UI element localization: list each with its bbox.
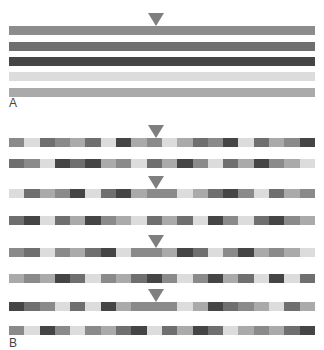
uniform-bar: [9, 88, 315, 97]
color-block: [238, 302, 253, 311]
color-block: [193, 216, 208, 225]
color-block: [193, 274, 208, 283]
color-block: [116, 274, 131, 283]
color-block: [55, 248, 70, 257]
color-block: [238, 159, 253, 168]
color-block: [70, 216, 85, 225]
block-row: [9, 302, 315, 311]
color-block: [300, 302, 315, 311]
block-row: [9, 138, 315, 147]
color-block: [162, 159, 177, 168]
color-block: [116, 216, 131, 225]
color-block: [269, 302, 284, 311]
color-block: [238, 274, 253, 283]
color-block: [24, 326, 39, 335]
color-block: [238, 248, 253, 257]
color-block: [193, 248, 208, 257]
color-block: [85, 248, 100, 257]
color-block: [9, 189, 24, 198]
color-block: [131, 216, 146, 225]
color-block: [131, 248, 146, 257]
color-block: [85, 274, 100, 283]
color-block: [9, 274, 24, 283]
color-block: [147, 326, 162, 335]
color-block: [131, 159, 146, 168]
color-block: [254, 274, 269, 283]
insertion-arrow-icon: [148, 125, 164, 138]
color-block: [147, 138, 162, 147]
color-block: [55, 159, 70, 168]
color-block: [177, 326, 192, 335]
color-block: [238, 189, 253, 198]
color-block: [208, 216, 223, 225]
color-block: [162, 274, 177, 283]
color-block: [40, 326, 55, 335]
color-block: [55, 274, 70, 283]
color-block: [70, 274, 85, 283]
color-block: [269, 189, 284, 198]
color-block: [193, 138, 208, 147]
insertion-arrow-icon: [148, 235, 164, 248]
color-block: [284, 159, 299, 168]
color-block: [162, 189, 177, 198]
color-block: [223, 302, 238, 311]
color-block: [147, 274, 162, 283]
color-block: [223, 274, 238, 283]
color-block: [116, 326, 131, 335]
color-block: [9, 159, 24, 168]
color-block: [101, 138, 116, 147]
color-block: [269, 138, 284, 147]
color-block: [254, 189, 269, 198]
color-block: [177, 189, 192, 198]
block-row: [9, 274, 315, 283]
color-block: [55, 189, 70, 198]
color-block: [40, 216, 55, 225]
color-block: [116, 302, 131, 311]
color-block: [300, 189, 315, 198]
color-block: [147, 189, 162, 198]
color-block: [116, 189, 131, 198]
color-block: [24, 159, 39, 168]
color-block: [9, 216, 24, 225]
color-block: [254, 326, 269, 335]
color-block: [177, 159, 192, 168]
color-block: [223, 326, 238, 335]
color-block: [85, 189, 100, 198]
color-block: [162, 216, 177, 225]
color-block: [70, 248, 85, 257]
block-row: [9, 216, 315, 225]
panel-a-label: A: [9, 97, 17, 109]
color-block: [238, 138, 253, 147]
color-block: [131, 326, 146, 335]
color-block: [40, 302, 55, 311]
color-block: [223, 159, 238, 168]
uniform-bar: [9, 72, 315, 81]
color-block: [85, 326, 100, 335]
color-block: [284, 138, 299, 147]
color-block: [208, 326, 223, 335]
color-block: [193, 326, 208, 335]
insertion-arrow-icon: [148, 13, 164, 26]
uniform-bar: [9, 57, 315, 66]
color-block: [55, 302, 70, 311]
color-block: [24, 302, 39, 311]
block-row: [9, 326, 315, 335]
color-block: [193, 159, 208, 168]
color-block: [131, 302, 146, 311]
color-block: [269, 248, 284, 257]
color-block: [177, 274, 192, 283]
color-block: [101, 274, 116, 283]
color-block: [101, 302, 116, 311]
color-block: [24, 274, 39, 283]
color-block: [284, 326, 299, 335]
color-block: [208, 138, 223, 147]
color-block: [70, 138, 85, 147]
color-block: [177, 248, 192, 257]
color-block: [9, 302, 24, 311]
color-block: [147, 216, 162, 225]
color-block: [254, 159, 269, 168]
color-block: [40, 248, 55, 257]
color-block: [85, 138, 100, 147]
color-block: [9, 248, 24, 257]
color-block: [284, 189, 299, 198]
